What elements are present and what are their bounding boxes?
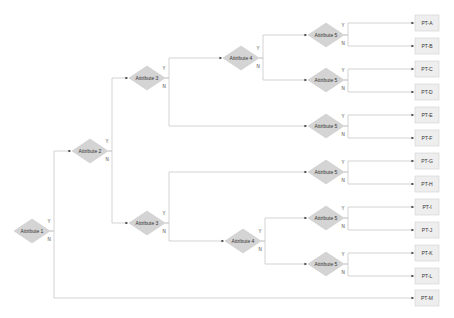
leaf-node-label: PT-J bbox=[422, 227, 433, 233]
decision-node-a3b[interactable]: Attribute 3 bbox=[129, 211, 165, 235]
decision-node-label: Attribute 5 bbox=[315, 169, 338, 175]
leaf-node-ptf[interactable]: PT-F bbox=[415, 130, 439, 146]
leaf-node-pte[interactable]: PT-E bbox=[415, 107, 439, 123]
edge-a1-a2: Y bbox=[47, 150, 71, 231]
edge-a2-a3t: Y bbox=[105, 77, 128, 151]
branch-label: Y bbox=[47, 219, 50, 224]
leaf-node-label: PT-E bbox=[421, 112, 433, 118]
leaf-node-pti[interactable]: PT-I bbox=[415, 199, 439, 215]
branch-label: Y bbox=[105, 139, 108, 144]
edge-a4b-a5f: N bbox=[258, 241, 307, 265]
leaf-node-ptb[interactable]: PT-B bbox=[415, 38, 439, 54]
branch-label: N bbox=[162, 229, 165, 234]
branch-label: Y bbox=[341, 114, 344, 119]
branch-label: N bbox=[341, 270, 344, 275]
edge-a5c-ptf: N bbox=[341, 126, 414, 139]
leaf-node-ptj[interactable]: PT-J bbox=[415, 222, 439, 238]
decision-node-a1[interactable]: Attribute 1 bbox=[14, 219, 50, 243]
leaf-node-pth[interactable]: PT-H bbox=[415, 176, 439, 192]
decision-node-a5f[interactable]: Attribute 5 bbox=[308, 252, 344, 276]
decision-node-label: Attribute 5 bbox=[315, 77, 338, 83]
edge-a4t-a5b: N bbox=[256, 58, 307, 81]
edge-a4t-a5a: Y bbox=[256, 34, 307, 58]
arrowhead-icon bbox=[412, 137, 415, 139]
branch-label: Y bbox=[341, 23, 344, 28]
leaf-node-ptg[interactable]: PT-G bbox=[415, 153, 439, 169]
decision-tree-canvas: YNYNYNYNYNYNYNYNYNYNYNYN Attribute 1Attr… bbox=[0, 0, 454, 318]
branch-label: Y bbox=[258, 229, 261, 234]
edge-a3t-a5c: N bbox=[162, 78, 307, 127]
branch-label: N bbox=[341, 132, 344, 137]
arrowhead-icon bbox=[412, 160, 415, 162]
leaf-node-label: PT-K bbox=[421, 250, 433, 256]
decision-node-a5c[interactable]: Attribute 5 bbox=[308, 114, 344, 138]
leaf-node-label: PT-G bbox=[421, 158, 433, 164]
decision-node-a5e[interactable]: Attribute 5 bbox=[308, 206, 344, 230]
arrowhead-icon bbox=[305, 263, 308, 265]
leaf-node-label: PT-F bbox=[422, 135, 433, 141]
branch-label: Y bbox=[341, 160, 344, 165]
leaf-node-label: PT-C bbox=[421, 66, 433, 72]
leaf-node-ptm[interactable]: PT-M bbox=[415, 290, 439, 306]
decision-node-label: Attribute 2 bbox=[79, 148, 102, 154]
branch-label: N bbox=[341, 178, 344, 183]
leaf-node-label: PT-D bbox=[421, 89, 433, 95]
decision-node-a5a[interactable]: Attribute 5 bbox=[308, 23, 344, 47]
edge-a3b-a5d: Y bbox=[162, 171, 307, 223]
edge-a3b-a4b: N bbox=[162, 223, 224, 242]
arrowhead-icon bbox=[412, 297, 415, 299]
edge-a5b-ptc: Y bbox=[341, 68, 414, 80]
decision-node-a4b[interactable]: Attribute 4 bbox=[225, 229, 261, 253]
leaf-node-ptd[interactable]: PT-D bbox=[415, 84, 439, 100]
decision-node-label: Attribute 1 bbox=[21, 228, 44, 234]
edge-a5a-ptb: N bbox=[341, 35, 414, 47]
arrowhead-icon bbox=[305, 217, 308, 219]
edge-a5f-ptk: Y bbox=[341, 252, 414, 264]
branch-label: N bbox=[47, 237, 50, 242]
leaf-node-label: PT-A bbox=[421, 20, 433, 26]
branch-label: N bbox=[162, 84, 165, 89]
edge-a3t-a4t: Y bbox=[162, 57, 222, 78]
branch-label: Y bbox=[341, 68, 344, 73]
arrowhead-icon bbox=[412, 45, 415, 47]
arrowhead-icon bbox=[412, 114, 415, 116]
decision-node-label: Attribute 5 bbox=[315, 261, 338, 267]
edge-a5a-pta: Y bbox=[341, 22, 414, 35]
branch-label: N bbox=[256, 64, 259, 69]
leaf-node-label: PT-M bbox=[421, 295, 433, 301]
edge-a5d-ptg: Y bbox=[341, 160, 414, 172]
edge-a5f-ptl: N bbox=[341, 264, 414, 277]
branch-label: Y bbox=[341, 206, 344, 211]
decision-node-a2[interactable]: Attribute 2 bbox=[72, 139, 108, 163]
decision-node-label: Attribute 5 bbox=[315, 123, 338, 129]
decision-node-label: Attribute 3 bbox=[136, 75, 159, 81]
arrowhead-icon bbox=[412, 68, 415, 70]
decision-node-a5d[interactable]: Attribute 5 bbox=[308, 160, 344, 184]
arrowhead-icon bbox=[412, 183, 415, 185]
decision-node-a4t[interactable]: Attribute 4 bbox=[223, 46, 259, 70]
leaf-node-label: PT-I bbox=[422, 204, 431, 210]
leaf-node-label: PT-L bbox=[422, 273, 433, 279]
branch-label: Y bbox=[341, 252, 344, 257]
edge-a5e-pti: Y bbox=[341, 206, 414, 218]
leaf-node-ptl[interactable]: PT-L bbox=[415, 268, 439, 284]
branch-label: Y bbox=[162, 211, 165, 216]
decision-node-a5b[interactable]: Attribute 5 bbox=[308, 68, 344, 92]
decision-node-label: Attribute 4 bbox=[232, 238, 255, 244]
decision-node-label: Attribute 5 bbox=[315, 32, 338, 38]
branch-label: N bbox=[341, 41, 344, 46]
leaf-node-pta[interactable]: PT-A bbox=[415, 15, 439, 31]
leaf-node-label: PT-B bbox=[421, 43, 433, 49]
decision-node-a3t[interactable]: Attribute 3 bbox=[129, 66, 165, 90]
nodes-layer: Attribute 1Attribute 2Attribute 3Attribu… bbox=[14, 15, 439, 306]
leaf-node-ptc[interactable]: PT-C bbox=[415, 61, 439, 77]
leaf-node-ptk[interactable]: PT-K bbox=[415, 245, 439, 261]
arrowhead-icon bbox=[220, 57, 223, 59]
edge-a5c-pte: Y bbox=[341, 114, 414, 126]
branch-label: Y bbox=[256, 46, 259, 51]
arrowhead-icon bbox=[305, 125, 308, 127]
edge-a5d-pth: N bbox=[341, 172, 414, 185]
arrowhead-icon bbox=[412, 206, 415, 208]
arrowhead-icon bbox=[305, 34, 308, 36]
edge-a4b-a5e: Y bbox=[258, 217, 307, 241]
